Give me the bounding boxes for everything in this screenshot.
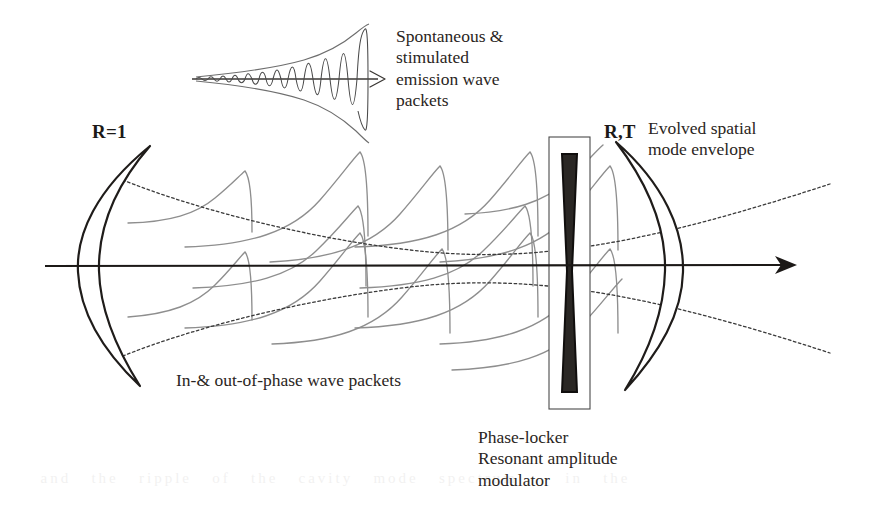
figure-canvas: Spontaneous & stimulated emission wave p… bbox=[0, 0, 881, 526]
label-in-out-of-phase-packets: In-& out-of-phase wave packets bbox=[176, 370, 401, 391]
packet-envelope-upper bbox=[196, 24, 369, 77]
label-phase-locker-modulator: Phase-locker Resonant amplitude modulato… bbox=[478, 427, 618, 491]
label-mirror-left-reflectivity: R=1 bbox=[92, 120, 127, 143]
packet-envelope-lower bbox=[196, 81, 369, 143]
label-mirror-right-reflectivity: R,T bbox=[604, 120, 636, 143]
label-spontaneous-emission: Spontaneous & stimulated emission wave p… bbox=[396, 26, 503, 111]
label-evolved-spatial-mode: Evolved spatial mode envelope bbox=[648, 118, 756, 161]
